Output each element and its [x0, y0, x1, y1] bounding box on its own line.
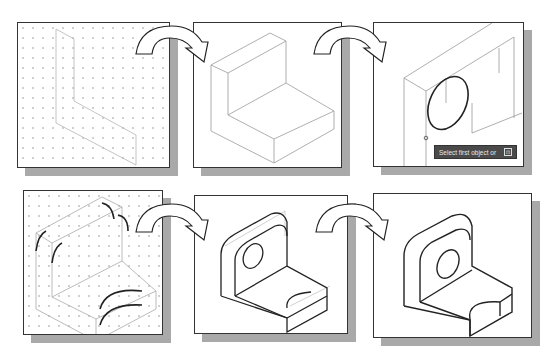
- command-prompt-tooltip: Select first object or ⊡: [434, 145, 517, 159]
- curved-arrow-icon-2: [310, 20, 390, 75]
- finished-bracket-drawing: [374, 194, 532, 338]
- tooltip-text: Select first object or: [439, 149, 496, 156]
- tooltip-option-icon[interactable]: ⊡: [504, 148, 512, 156]
- curved-arrow-icon-3: [132, 198, 212, 253]
- curved-arrow-icon-4: [312, 198, 392, 253]
- curved-arrow-icon-1: [132, 20, 212, 75]
